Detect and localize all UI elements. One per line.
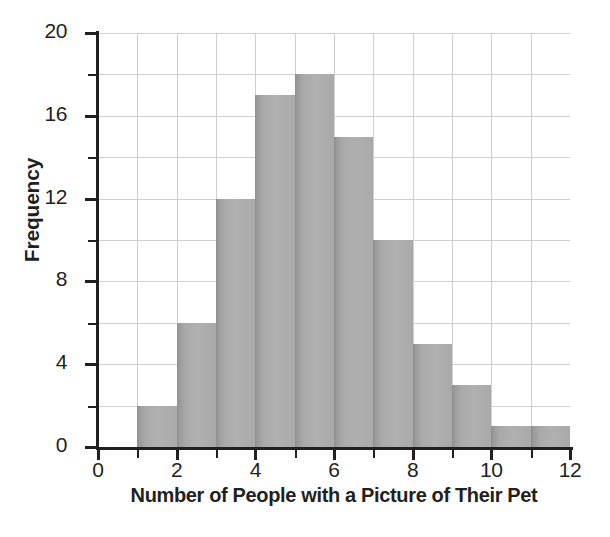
x-axis-tick-minor [295,449,297,458]
x-axis-tick-label: 4 [232,458,278,482]
x-axis-tick-label: 0 [75,458,121,482]
x-axis-tick-minor [373,449,375,458]
y-axis-tick-label: 20 [19,19,67,43]
histogram-bar [216,199,255,447]
x-axis-title: Number of People with a Picture of Their… [98,484,570,507]
x-axis-tick-minor [137,449,139,458]
plot-area [98,33,570,447]
x-axis-tick-minor [216,449,218,458]
y-axis-tick-label: 12 [19,185,67,209]
histogram-chart: Frequency Number of People with a Pictur… [0,0,610,537]
x-axis-tick-minor [452,449,454,458]
y-axis-tick-minor [88,74,97,76]
x-axis-tick-label: 10 [468,458,514,482]
y-axis-tick-label: 0 [19,433,67,457]
y-axis-tick-minor [88,323,97,325]
y-axis-tick-minor [88,406,97,408]
x-axis-tick-minor [531,449,533,458]
gridline-horizontal [98,74,570,75]
y-axis-tick-major [85,115,97,118]
histogram-bar [177,323,216,447]
gridline-horizontal [98,116,570,117]
histogram-bar [255,95,294,447]
y-axis-tick-major [85,446,97,449]
y-axis-tick-label: 8 [19,267,67,291]
y-axis-tick-major [85,198,97,201]
y-axis-tick-minor [88,157,97,159]
y-axis-title: Frequency [20,130,44,290]
histogram-bar [491,426,530,447]
y-axis-tick-major [85,280,97,283]
histogram-bar [373,240,412,447]
y-axis-tick-minor [88,240,97,242]
histogram-bar [413,344,452,448]
x-axis-tick-label: 12 [547,458,593,482]
y-axis-tick-major [85,32,97,35]
histogram-bar [452,385,491,447]
histogram-bar [295,74,334,447]
y-axis-tick-label: 4 [19,350,67,374]
histogram-bar [137,406,176,447]
x-axis-tick-label: 2 [154,458,200,482]
histogram-bar [334,137,373,448]
y-axis-tick-label: 16 [19,102,67,126]
histogram-bar [531,426,570,447]
gridline-horizontal [98,33,570,34]
x-axis-tick-label: 6 [311,458,357,482]
x-axis-tick-label: 8 [390,458,436,482]
y-axis-tick-major [85,363,97,366]
